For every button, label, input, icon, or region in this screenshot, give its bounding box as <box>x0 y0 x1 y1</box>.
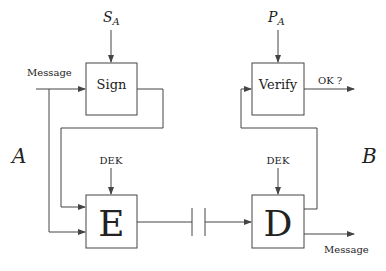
input-message-label: Message <box>27 67 72 78</box>
verify-output-label: OK ? <box>318 75 342 86</box>
sign-label: Sign <box>97 77 127 92</box>
verify-key-label: PA <box>267 9 285 27</box>
encrypt-key-label: DEK <box>100 155 123 166</box>
signature-encryption-diagram: A B SA PA Sign Verify Message DEK E DEK … <box>0 0 386 271</box>
svg-text:SA: SA <box>103 9 120 27</box>
decrypt-label: D <box>264 203 293 244</box>
verify-label: Verify <box>258 77 298 92</box>
svg-text:PA: PA <box>267 9 285 27</box>
party-b-label: B <box>361 144 377 168</box>
decrypt-key-label: DEK <box>267 155 290 166</box>
message-to-encrypt-arrow <box>49 89 85 232</box>
output-message-label: Message <box>324 244 369 255</box>
encrypt-label: E <box>98 203 124 244</box>
party-a-label: A <box>10 144 26 168</box>
sign-key-label: SA <box>103 9 120 27</box>
